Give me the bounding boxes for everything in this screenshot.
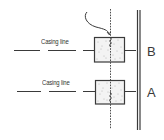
curved-wire [85,12,109,34]
lower-casing-line-label: Casing line [42,79,70,86]
double-wall [138,10,141,130]
casing-diagram: Casing line Casing line B A [0,0,164,140]
side-label-a: A [147,85,156,100]
diagram-canvas [0,0,164,140]
upper-casing-line-label: Casing line [41,38,69,45]
side-label-b: B [147,44,156,59]
